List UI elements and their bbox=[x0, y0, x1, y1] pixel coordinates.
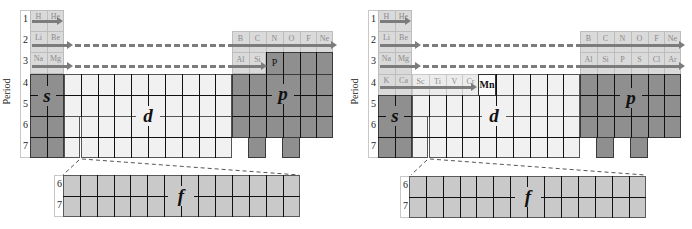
right-periodic-diagram: Period 1 2 3 4 5 6 7 H He Li Be Na Mg K … bbox=[348, 0, 692, 229]
f-block-label: f bbox=[515, 187, 541, 207]
f-block-label: f bbox=[168, 186, 194, 206]
left-periodic-diagram: Period 1 2 3 4 5 6 7 H He Li Be Na Mg B … bbox=[0, 0, 346, 229]
